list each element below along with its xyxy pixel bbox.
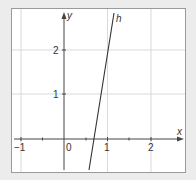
chart-svg: −1 0 1 2 1 2 x y h <box>0 0 196 180</box>
x-axis-label: x <box>176 126 183 137</box>
y-tick-label-2: 2 <box>53 45 59 56</box>
y-axis-label: y <box>66 10 73 21</box>
series-h-label: h <box>116 13 122 24</box>
x-tick-label-0: 0 <box>66 142 72 153</box>
x-tick-label-2: 2 <box>148 142 154 153</box>
y-tick-label-1: 1 <box>53 89 59 100</box>
x-tick-label-neg1: −1 <box>14 142 26 153</box>
plot-frame <box>12 9 186 173</box>
chart-container: −1 0 1 2 1 2 x y h <box>0 0 196 180</box>
x-tick-label-1: 1 <box>104 142 110 153</box>
